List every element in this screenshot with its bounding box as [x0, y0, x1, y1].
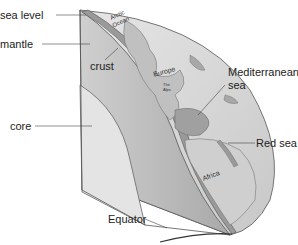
label-crust: crust — [90, 60, 114, 72]
earth-diagram — [0, 0, 298, 245]
label-red-sea: Red sea — [256, 137, 297, 149]
label-mantle: mantle — [0, 38, 33, 50]
map-label-alps-2: Alps — [163, 86, 171, 93]
label-sea-level: sea level — [0, 9, 43, 21]
label-core: core — [10, 120, 31, 132]
label-mediterranean-2: sea — [228, 79, 246, 91]
label-mediterranean-1: Mediterranean — [228, 66, 298, 78]
label-equator: Equator — [108, 213, 147, 225]
equator-line — [160, 234, 232, 242]
